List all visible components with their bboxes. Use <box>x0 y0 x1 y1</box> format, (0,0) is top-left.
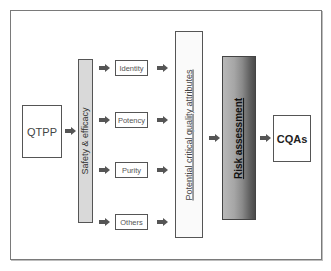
risk-assessment-bar: Risk assessment <box>222 56 256 220</box>
arrow-right-icon <box>209 134 220 142</box>
potency-box: Potency <box>115 112 148 128</box>
arrow-right-icon <box>65 127 76 135</box>
potential-cqa-bar: Potential critical quality attributes <box>175 31 203 238</box>
arrow-right-icon <box>99 64 110 72</box>
potential-cqa-label: Potential critical quality attributes <box>184 69 194 200</box>
risk-assessment-label: Risk assessment <box>234 97 245 178</box>
arrow-right-icon <box>157 166 168 174</box>
others-label: Others <box>120 218 143 227</box>
safety-efficacy-bar: Safety & efficacy <box>78 59 93 223</box>
safety-efficacy-label: Safety & efficacy <box>81 108 91 175</box>
arrow-right-icon <box>157 116 168 124</box>
identity-box: Identity <box>115 60 148 76</box>
purity-box: Purity <box>115 162 148 178</box>
arrow-right-icon <box>99 218 110 226</box>
cqas-box: CQAs <box>273 115 311 162</box>
qtpp-label: QTPP <box>27 126 57 138</box>
purity-label: Purity <box>122 166 141 175</box>
arrow-right-icon <box>99 116 110 124</box>
arrow-right-icon <box>260 134 271 142</box>
potency-label: Potency <box>118 116 145 125</box>
arrow-right-icon <box>157 218 168 226</box>
identity-label: Identity <box>119 64 143 73</box>
arrow-right-icon <box>157 64 168 72</box>
cqas-label: CQAs <box>277 133 308 145</box>
others-box: Others <box>115 214 148 230</box>
qtpp-box: QTPP <box>22 105 62 158</box>
arrow-right-icon <box>99 166 110 174</box>
